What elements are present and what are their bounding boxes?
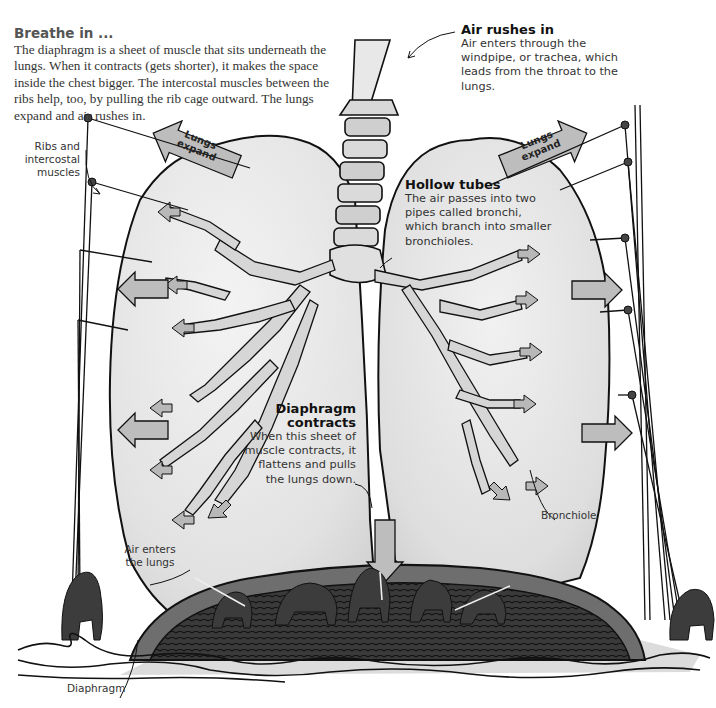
callout-diaphragm-body-2: muscle contracts, it bbox=[240, 444, 356, 458]
label-ribs-line1: Ribs and bbox=[20, 140, 80, 153]
callout-diaphragm-body-4: the lungs down. bbox=[240, 473, 356, 487]
lungs-illustration: Breathe in ... The diaphragm is a sheet … bbox=[0, 0, 716, 708]
callout-air-rushes-in-body: Air enters through the windpipe, or trac… bbox=[461, 37, 621, 94]
label-ribs-line3: muscles bbox=[20, 166, 80, 179]
label-diaphragm: Diaphragm bbox=[67, 682, 125, 695]
label-air-enters: Air enters the lungs bbox=[115, 543, 185, 569]
callout-diaphragm-body-3: flattens and pulls bbox=[240, 458, 356, 472]
callout-air-rushes-in-title: Air rushes in bbox=[461, 22, 631, 37]
label-air-enters-line1: Air enters bbox=[115, 543, 185, 556]
label-bronchiole: Bronchiole bbox=[541, 509, 597, 522]
callout-hollow-tubes: Hollow tubes The air passes into two pip… bbox=[405, 177, 565, 249]
callout-diaphragm-body-1: When this sheet of bbox=[240, 430, 356, 444]
callout-diaphragm-contracts: Diaphragm contracts When this sheet of m… bbox=[240, 402, 356, 487]
label-ribs-line2: intercostal bbox=[20, 153, 80, 166]
callout-diaphragm-title-1: Diaphragm bbox=[240, 402, 356, 416]
callout-hollow-tubes-title: Hollow tubes bbox=[405, 177, 565, 192]
callout-air-rushes-in: Air rushes in Air enters through the win… bbox=[461, 22, 631, 94]
callout-hollow-tubes-body: The air passes into two pipes called bro… bbox=[405, 192, 555, 249]
intro-title: Breathe in ... bbox=[14, 25, 113, 41]
label-air-enters-line2: the lungs bbox=[115, 556, 185, 569]
intro-body: The diaphragm is a sheet of muscle that … bbox=[14, 42, 334, 124]
callout-diaphragm-title-2: contracts bbox=[240, 416, 356, 430]
label-ribs: Ribs and intercostal muscles bbox=[20, 140, 80, 179]
